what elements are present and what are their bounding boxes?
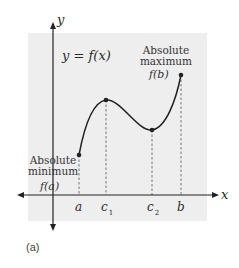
figure-caption: (a) xyxy=(26,241,39,253)
function-equation: y = f(x) xyxy=(62,49,111,62)
point-c1 xyxy=(104,98,109,103)
tick-c1-sub: 1 xyxy=(109,209,113,217)
tick-label-c1: c1 xyxy=(101,201,113,213)
x-axis-right-arrow-icon xyxy=(212,192,219,198)
x-axis-label: x xyxy=(221,188,228,201)
x-axis-left-arrow-icon xyxy=(17,192,24,198)
absolute-maximum-label: Absolute maximum xyxy=(138,45,194,67)
tick-c2-base: c xyxy=(147,200,154,214)
tick-c2-sub: 2 xyxy=(155,209,159,217)
diagram-canvas xyxy=(0,0,239,268)
tick-label-b: b xyxy=(177,201,185,213)
abs-max-line2: maximum xyxy=(138,56,194,67)
f-of-b-label: f(b) xyxy=(149,69,169,80)
y-axis-down-arrow-icon xyxy=(50,224,56,231)
tick-label-c2: c2 xyxy=(147,201,159,213)
y-axis-up-arrow-icon xyxy=(50,22,56,29)
tick-label-a: a xyxy=(75,201,82,213)
point-c2 xyxy=(150,128,155,133)
tick-c1-base: c xyxy=(101,200,108,214)
extrema-diagram: y x y = f(x) Absolute maximum f(b) Absol… xyxy=(0,0,239,268)
absolute-minimum-label: Absolute minimum xyxy=(28,155,78,177)
f-of-a-label: f(a) xyxy=(40,181,59,192)
abs-min-line2: minimum xyxy=(28,166,78,177)
y-axis-label: y xyxy=(57,13,64,26)
point-b xyxy=(179,73,184,78)
